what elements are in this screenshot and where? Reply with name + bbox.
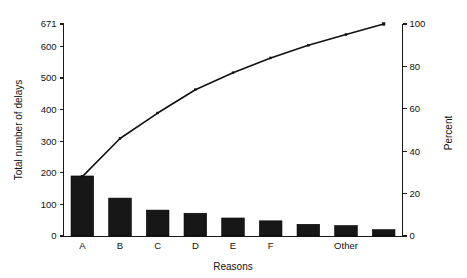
bar bbox=[222, 218, 245, 236]
x-axis-category-label: D bbox=[192, 240, 199, 251]
pareto-chart: 0100200300400500600671 020406080100 ABCD… bbox=[0, 0, 467, 278]
y-axis-left-tick-label: 100 bbox=[41, 199, 57, 210]
y-axis-right-tick-label: 100 bbox=[410, 18, 426, 29]
cumulative-percent-marker bbox=[345, 34, 347, 36]
y-axis-left-tick-label: 300 bbox=[41, 136, 57, 147]
y-axis-left-tick-label: 0 bbox=[51, 230, 56, 241]
y-axis-left-tick-label: 200 bbox=[41, 167, 57, 178]
y-axis-right-title: Percent bbox=[443, 116, 454, 151]
x-axis-category-label: C bbox=[154, 240, 161, 251]
cumulative-percent-marker bbox=[270, 57, 272, 59]
y-axis-left-tick-label: 400 bbox=[41, 104, 57, 115]
x-axis-category-label: Other bbox=[334, 240, 358, 251]
bar bbox=[297, 224, 320, 236]
bar bbox=[372, 230, 395, 236]
pareto-chart-canvas: 0100200300400500600671 020406080100 ABCD… bbox=[0, 0, 467, 278]
y-axis-right-tick-label: 80 bbox=[410, 61, 421, 72]
cumulative-percent-marker bbox=[382, 23, 385, 26]
cumulative-percent-marker bbox=[307, 44, 309, 46]
y-axis-right-tick-label: 0 bbox=[410, 230, 415, 241]
bar bbox=[184, 213, 207, 236]
x-axis-category-label: F bbox=[268, 240, 274, 251]
x-axis-title: Reasons bbox=[213, 261, 252, 272]
y-axis-right-tick-label: 40 bbox=[410, 146, 421, 157]
cumulative-percent-marker bbox=[81, 175, 84, 178]
cumulative-percent-marker bbox=[119, 138, 121, 140]
bar bbox=[259, 221, 282, 236]
x-axis-category-label: E bbox=[230, 240, 236, 251]
y-axis-left-title: Total number of delays bbox=[13, 80, 24, 181]
cumulative-percent-marker bbox=[194, 89, 196, 91]
cumulative-percent-marker bbox=[157, 112, 159, 114]
x-axis-category-label: B bbox=[117, 240, 123, 251]
y-axis-left-tick-label: 600 bbox=[41, 41, 57, 52]
cumulative-percent-marker bbox=[232, 72, 234, 74]
x-axis-category-label: A bbox=[79, 240, 86, 251]
y-axis-left-tick-label: 671 bbox=[41, 18, 57, 29]
bar bbox=[335, 226, 358, 236]
y-axis-right-tick-label: 20 bbox=[410, 188, 421, 199]
bar bbox=[109, 198, 132, 236]
y-axis-left-tick-label: 500 bbox=[41, 72, 57, 83]
bar bbox=[146, 210, 169, 236]
bar bbox=[71, 176, 94, 236]
y-axis-right-tick-label: 60 bbox=[410, 103, 421, 114]
